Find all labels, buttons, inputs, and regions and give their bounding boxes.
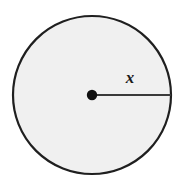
- center-dot: [87, 90, 97, 100]
- circle-diagram-svg: [0, 0, 184, 187]
- geometry-figure-canvas: x: [0, 0, 184, 187]
- radius-label: x: [119, 69, 141, 86]
